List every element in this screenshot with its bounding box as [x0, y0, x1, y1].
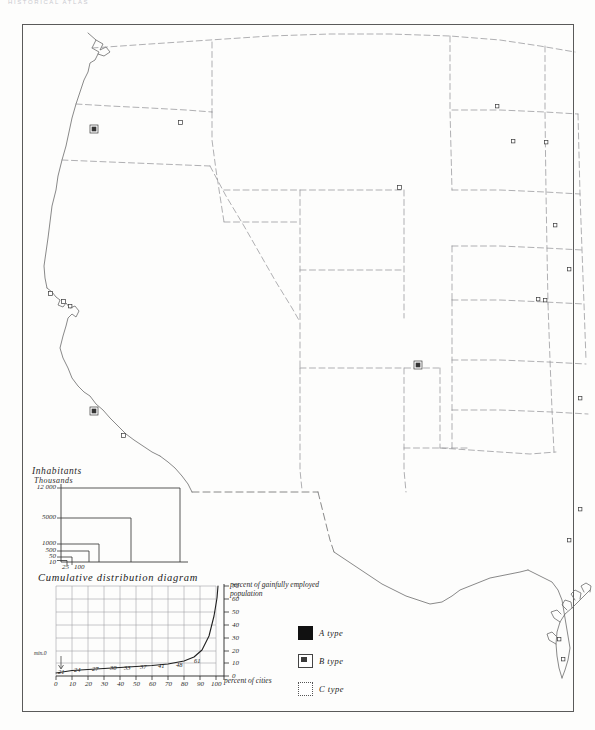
- cum-xtick-10: 10: [69, 680, 76, 688]
- cum-point-label-37: 37: [140, 663, 147, 670]
- legend-label-a-type: A type: [319, 628, 343, 638]
- cum-point-label-21: 21: [58, 668, 65, 675]
- inh-xtick-25: 25: [62, 563, 69, 571]
- cum-ytick-10: 10: [232, 659, 239, 667]
- cum-xtick-60: 60: [149, 680, 156, 688]
- b-type-swatch-icon: [298, 654, 313, 668]
- cum-point-label-30: 30: [110, 664, 117, 671]
- a-type-swatch-icon: [298, 626, 313, 640]
- cum-ytick-20: 20: [232, 647, 239, 655]
- cum-xtick-80: 80: [181, 680, 188, 688]
- cum-xtick-100: 100: [211, 680, 222, 688]
- cum-ytick-50: 50: [232, 608, 239, 616]
- cum-xtick-70: 70: [165, 680, 172, 688]
- cum-point-label-33: 33: [124, 664, 131, 671]
- cum-min-label: min.0: [34, 650, 46, 656]
- legend-row-a-type: A type: [298, 626, 408, 654]
- cum-xtick-40: 40: [117, 680, 124, 688]
- inh-tick-10: 10: [26, 558, 56, 566]
- cum-x-axis-caption: percent of cities: [224, 676, 272, 685]
- legend-label-c-type: C type: [319, 684, 344, 694]
- cum-ytick-40: 40: [232, 621, 239, 629]
- plate-page: HISTORICAL ATLAS: [0, 0, 595, 730]
- c-type-swatch-icon: [298, 682, 313, 696]
- cumulative-distribution-diagram: Cumulative distribution diagram: [28, 572, 328, 700]
- cum-point-label-48: 48: [176, 661, 183, 668]
- legend-row-c-type: C type: [298, 682, 408, 710]
- cum-point-label-61: 61: [194, 657, 201, 664]
- inhabitants-legend: Inhabitants Thousands: [28, 466, 210, 570]
- cum-xtick-50: 50: [133, 680, 140, 688]
- legend-label-b-type: B type: [319, 656, 343, 666]
- symbol-legend: A type B type C type: [298, 626, 408, 710]
- cum-point-label-24: 24: [74, 666, 81, 673]
- inh-tick-5000: 5000: [26, 513, 56, 521]
- inh-xtick-100: 100: [74, 563, 85, 571]
- inh-tick-12000: 12 000: [26, 483, 56, 491]
- legend-row-b-type: B type: [298, 654, 408, 682]
- cum-xtick-90: 90: [197, 680, 204, 688]
- cum-point-label-41: 41: [158, 662, 165, 669]
- cum-y-axis-caption: percent of gainfully employed population: [230, 580, 326, 598]
- cum-xtick-20: 20: [85, 680, 92, 688]
- cum-xtick-0: 0: [54, 680, 58, 688]
- running-header: HISTORICAL ATLAS: [8, 0, 89, 5]
- cum-ytick-30: 30: [232, 634, 239, 642]
- cum-xtick-30: 30: [101, 680, 108, 688]
- cum-point-label-27: 27: [92, 665, 99, 672]
